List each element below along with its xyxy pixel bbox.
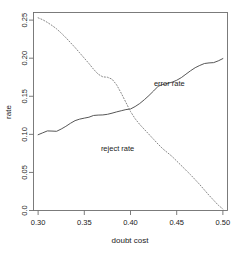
y-tick-label: 0.10 [20,127,29,142]
y-tick-label: 0.05 [20,165,29,180]
y-tick-label: 0.25 [20,13,29,28]
line-chart: 0.300.350.400.450.50 0.00.050.100.150.20… [0,0,241,253]
x-tick-label: 0.40 [123,218,138,227]
y-tick-label: 0.20 [20,51,29,66]
chart-figure: 0.300.350.400.450.50 0.00.050.100.150.20… [0,0,241,253]
y-tick-label: 0.0 [20,205,29,215]
x-tick-label: 0.45 [169,218,184,227]
x-axis-title: doubt cost [112,236,150,245]
x-tick-label: 0.30 [31,218,46,227]
chart-background [0,0,241,253]
series-label-reject-rate: reject rate [101,144,134,153]
y-tick-label: 0.15 [20,89,29,104]
y-axis-title: rate [4,105,13,119]
x-tick-label: 0.35 [77,218,92,227]
series-label-error-rate: error rate [154,79,185,88]
x-tick-label: 0.50 [216,218,231,227]
